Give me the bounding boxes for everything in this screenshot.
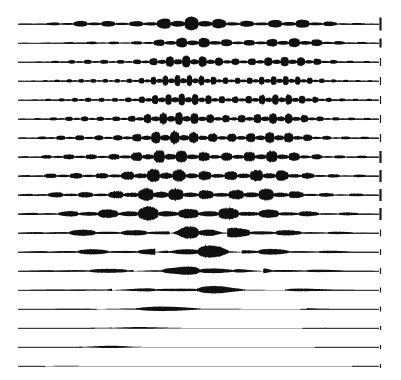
stacked-waveform-canvas (0, 0, 401, 380)
waveform-figure: Stacked waveform traces with decreasing … (0, 0, 401, 380)
